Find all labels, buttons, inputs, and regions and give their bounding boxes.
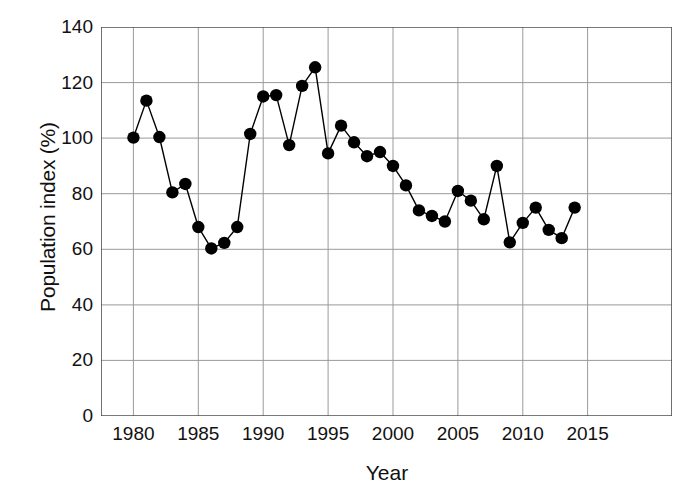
y-tick-label: 120: [33, 72, 93, 94]
x-axis-tick-labels: 19801985199019952000200520102015: [101, 423, 672, 453]
y-axis-tick-labels: 020406080100120140: [25, 27, 93, 416]
horizontal-gridlines: [101, 83, 672, 361]
x-tick-label: 2015: [548, 423, 628, 445]
y-tick-label: 40: [33, 294, 93, 316]
y-tick-label: 20: [33, 349, 93, 371]
y-tick-label: 100: [33, 127, 93, 149]
y-tick-label: 80: [33, 183, 93, 205]
data-point-markers: [127, 61, 581, 255]
y-tick-label: 0: [33, 405, 93, 427]
y-tick-label: 60: [33, 238, 93, 260]
y-tick-label: 140: [33, 16, 93, 38]
chart-figure: Population index (%) 020406080100120140 …: [0, 0, 693, 500]
plot-area: [101, 27, 672, 416]
line-chart-svg: [101, 27, 672, 416]
plot-frame: [101, 27, 672, 416]
x-axis-title: Year: [101, 461, 673, 485]
